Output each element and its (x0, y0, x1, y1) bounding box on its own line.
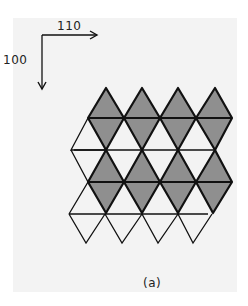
direction-axes (42, 35, 97, 89)
direction-label-110: 110 (57, 20, 81, 32)
direction-label-100: 100 (3, 54, 27, 66)
shaded-band-1 (88, 88, 232, 150)
figure-caption: (a) (143, 277, 161, 289)
octahedra-lattice-diagram (0, 0, 248, 306)
shaded-band-2 (88, 150, 232, 213)
